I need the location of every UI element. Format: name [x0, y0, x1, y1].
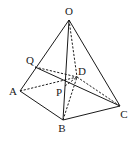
- vertex-label-c: C: [120, 108, 127, 120]
- edge-dc: [77, 77, 120, 106]
- vertex-label-a: A: [9, 85, 17, 97]
- edge-od: [69, 20, 77, 77]
- edge-qd: [35, 67, 77, 77]
- vertex-label-b: B: [58, 122, 65, 134]
- diagram-edges: [20, 20, 120, 120]
- vertex-label-d: D: [78, 65, 86, 77]
- vertex-label-q: Q: [26, 54, 34, 66]
- edge-bc: [63, 106, 120, 120]
- edge-oc: [69, 20, 120, 106]
- pyramid-diagram: OABCDQP: [0, 0, 139, 145]
- vertex-label-p: P: [56, 86, 62, 98]
- vertex-label-o: O: [65, 5, 73, 17]
